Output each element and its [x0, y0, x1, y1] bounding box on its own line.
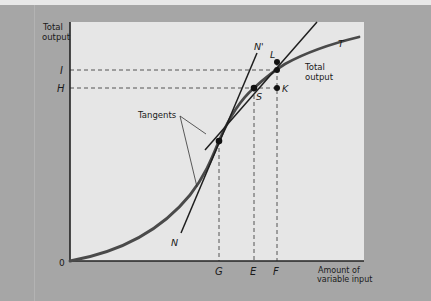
tangents-label: Tangents [137, 110, 177, 120]
label-N: N [171, 237, 178, 248]
chart-svg: Total output Amount of variable input 0 … [0, 0, 431, 301]
curve-label-line1: Total [304, 62, 325, 72]
y-tick-H: H [57, 83, 65, 94]
inflection-point [216, 138, 223, 145]
x-tick-G: G [215, 266, 223, 277]
label-L: L [270, 49, 275, 60]
y-axis-title-line2: output [42, 32, 71, 42]
x-axis-title-line2: variable input [317, 275, 372, 284]
label-N-prime: N' [254, 41, 264, 52]
y-axis-title-line1: Total [42, 22, 63, 32]
y-tick-I: I [60, 65, 63, 76]
x-tick-F: F [273, 266, 279, 277]
point-K [274, 85, 280, 91]
curve-label-line2: output [305, 72, 334, 82]
x-tick-E: E [250, 266, 257, 277]
label-K: K [282, 83, 289, 94]
origin-label: 0 [59, 258, 65, 268]
x-axis-title-line1: Amount of [318, 266, 360, 275]
label-S: S [256, 91, 262, 102]
curve-point-at-F [274, 67, 280, 73]
